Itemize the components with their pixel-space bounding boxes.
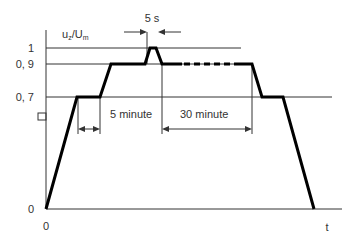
arrowhead-5min-right xyxy=(93,126,100,132)
second-hold-label: 30 minute xyxy=(180,108,228,120)
voltage-profile-diagram: uz/Um 1 0, 9 0, 7 0 0 t 5 s 5 minute 30 … xyxy=(0,0,354,242)
x-origin-label: 0 xyxy=(43,220,49,232)
voltage-profile-line-end xyxy=(234,64,314,209)
y-tick-0: 0 xyxy=(28,203,34,215)
y-axis-label: uz/Um xyxy=(62,28,89,41)
level-marker xyxy=(38,113,46,120)
arrowhead-30min-right xyxy=(245,126,252,132)
arrowhead-5s-left xyxy=(140,29,147,35)
arrowhead-5s-right xyxy=(158,29,165,35)
x-axis-label: t xyxy=(325,221,328,233)
arrowhead-5min-left xyxy=(78,126,85,132)
first-hold-label: 5 minute xyxy=(110,108,152,120)
y-tick-1: 1 xyxy=(28,42,34,54)
y-tick-0-9: 0, 9 xyxy=(16,58,34,70)
arrowhead-30min-left xyxy=(162,126,169,132)
pulse-duration-label: 5 s xyxy=(145,12,160,24)
y-tick-0-7: 0, 7 xyxy=(16,91,34,103)
